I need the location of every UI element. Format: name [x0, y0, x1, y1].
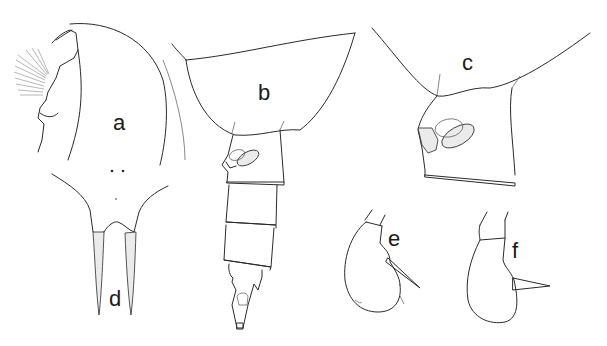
panel-f-drawing: [467, 212, 550, 323]
panel-label-a: a: [113, 112, 125, 134]
figure-plate: a b c d e f: [0, 0, 607, 346]
panel-label-f: f: [512, 240, 518, 262]
panel-a-drawing: [14, 23, 166, 165]
drawing-canvas: [0, 0, 607, 346]
panel-e-drawing: [345, 210, 420, 312]
panel-label-b: b: [258, 82, 270, 104]
setae-fan: [14, 48, 49, 95]
panel-b-drawing: [163, 33, 355, 329]
panel-label-c: c: [462, 52, 473, 74]
panel-label-e: e: [388, 228, 400, 250]
panel-label-d: d: [109, 288, 121, 310]
panel-c-drawing: [372, 28, 590, 186]
